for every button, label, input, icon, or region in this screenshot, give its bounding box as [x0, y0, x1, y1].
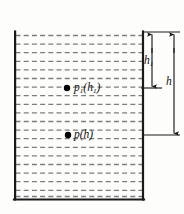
dimension-h-label: h — [166, 76, 172, 88]
point-p-marker — [65, 132, 71, 138]
point-p1-marker — [64, 85, 70, 91]
point-p-label: p(h) — [74, 129, 93, 141]
pressure-diagram-figure: p1(h1) p(h) h1 h — [0, 0, 184, 214]
diagram-canvas — [0, 0, 184, 214]
vessel-walls — [14, 32, 144, 200]
dimension-h1-label: h1 — [144, 55, 153, 68]
liquid-fill — [16, 36, 143, 197]
point-p1-label: p1(h1) — [74, 82, 100, 95]
